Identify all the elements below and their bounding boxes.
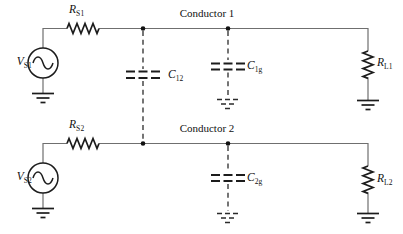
c12-letter: C — [168, 68, 176, 80]
ac-source-vs1-icon — [28, 48, 58, 78]
circuit-diagram: Conductor 1 Conductor 2 VS1 RS1 C12 C1g … — [0, 0, 403, 234]
vs1-letter: V — [17, 55, 24, 67]
rs2-letter: R — [69, 118, 76, 130]
wire-conductor-2 — [99, 144, 368, 167]
conductor-1-label: Conductor 1 — [167, 7, 247, 19]
c1g-subscript: 1g — [255, 65, 263, 74]
rs2-subscript: S2 — [76, 124, 84, 133]
c2g-subscript: 2g — [255, 177, 263, 186]
wire-vs2-to-rs2 — [43, 144, 67, 164]
rl2-letter: R — [377, 172, 384, 184]
c1g-letter: C — [247, 59, 255, 71]
sine-wave-icon — [33, 57, 53, 69]
ground-symbol-rl1 — [357, 101, 379, 110]
vs1-subscript: S1 — [24, 61, 32, 70]
resistor-rl1-icon — [363, 51, 373, 78]
node-dot-c12-conductor1 — [141, 26, 146, 31]
rl1-subscript: L1 — [384, 62, 393, 71]
wire-conductor-1 — [99, 29, 368, 52]
resistor-rs1-icon — [67, 24, 99, 34]
resistor-rs2-icon — [67, 139, 99, 149]
c2g-label: C2g — [247, 171, 263, 185]
c12-subscript: 12 — [176, 74, 184, 83]
c2g-letter: C — [247, 171, 255, 183]
capacitor-c12-icon — [126, 31, 160, 141]
rl1-letter: R — [377, 56, 384, 68]
capacitor-c2g-icon — [211, 146, 245, 211]
vs2-subscript: S2 — [24, 176, 32, 185]
node-dot-c12-conductor2 — [141, 141, 146, 146]
rs1-label: RS1 — [69, 3, 84, 17]
node-dot-c2g-conductor2 — [226, 141, 231, 146]
vs2-letter: V — [17, 170, 24, 182]
ground-symbol-vs1 — [32, 94, 54, 103]
ground-symbol-rl2 — [357, 214, 379, 223]
sine-wave-icon — [33, 172, 53, 184]
rs2-label: RS2 — [69, 118, 84, 132]
rl2-subscript: L2 — [384, 178, 393, 187]
vs2-label: VS2 — [5, 170, 32, 184]
dashed-ground-symbol-c1g — [217, 100, 239, 109]
conductor-2-label: Conductor 2 — [167, 122, 247, 134]
capacitor-c1g-icon — [211, 31, 245, 97]
c12-label: C12 — [168, 68, 184, 82]
resistor-rl2-icon — [363, 166, 373, 193]
rs1-letter: R — [69, 3, 76, 15]
rl2-label: RL2 — [377, 172, 393, 186]
ground-symbol-vs2 — [32, 209, 54, 218]
wire-vs1-to-rs1 — [43, 29, 67, 49]
vs1-label: VS1 — [5, 55, 32, 69]
ac-source-vs2-icon — [28, 163, 58, 193]
c1g-label: C1g — [247, 59, 263, 73]
circuit-canvas — [0, 0, 403, 234]
node-dot-c1g-conductor1 — [226, 26, 231, 31]
rl1-label: RL1 — [377, 56, 393, 70]
dashed-ground-symbol-c2g — [217, 214, 239, 223]
rs1-subscript: S1 — [76, 9, 84, 18]
